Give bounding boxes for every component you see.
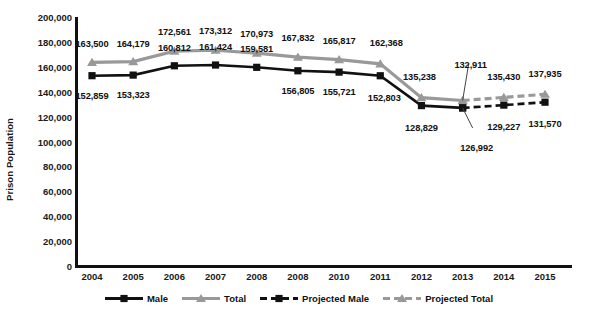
x-axis-tick-label: 2013 <box>440 271 486 282</box>
data-point-value-label: 155,721 <box>323 87 356 97</box>
x-axis-tick-label: 2004 <box>69 271 115 282</box>
legend-swatch-triangle-dashed-icon <box>382 292 422 305</box>
x-axis-tick-label: 2012 <box>398 271 444 282</box>
data-point-value-label: 132,911 <box>454 60 486 70</box>
data-point-marker <box>130 72 137 79</box>
data-point-value-label: 167,832 <box>281 33 314 43</box>
data-point-value-label: 135,238 <box>403 72 436 82</box>
data-point-value-label: 126,992 <box>460 143 493 153</box>
x-axis-tick-label: 2008 <box>234 271 280 282</box>
data-point-value-label: 129,227 <box>487 122 520 132</box>
data-point-marker <box>253 64 260 71</box>
data-point-marker <box>541 99 548 106</box>
x-axis-tick-label: 2007 <box>193 271 239 282</box>
data-point-value-label: 173,312 <box>199 26 232 36</box>
data-point-marker <box>500 102 507 109</box>
x-axis-tick-label: 2008 <box>275 271 321 282</box>
x-axis-tick-label: 2015 <box>522 271 568 282</box>
data-point-value-label: 137,935 <box>529 69 562 79</box>
data-point-value-label: 163,500 <box>76 39 109 49</box>
label-leader-line <box>463 108 473 128</box>
legend-item-total[interactable]: Total <box>181 292 246 305</box>
data-point-value-label: 131,570 <box>529 119 562 129</box>
x-axis-tick-labels: 2004200520062007200820082010201120122013… <box>0 271 597 287</box>
data-point-value-label: 165,817 <box>323 36 356 46</box>
data-point-value-label: 172,561 <box>158 27 191 37</box>
legend-label: Total <box>224 293 246 304</box>
data-point-value-label: 128,829 <box>405 123 438 133</box>
legend-item-projected-total[interactable]: Projected Total <box>382 292 493 305</box>
legend-swatch-square-solid-icon <box>104 292 144 305</box>
legend-swatch-triangle-solid-icon <box>181 292 221 305</box>
x-axis-tick-label: 2011 <box>357 271 403 282</box>
data-point-value-label: 160,812 <box>158 43 191 53</box>
data-point-marker <box>212 61 219 68</box>
legend-item-male[interactable]: Male <box>104 292 168 305</box>
data-point-marker <box>88 72 95 79</box>
data-point-value-label: 170,973 <box>240 29 273 39</box>
data-point-value-label: 164,179 <box>117 39 150 49</box>
chart-legend: MaleTotalProjected MaleProjected Total <box>0 289 597 307</box>
x-axis-tick-label: 2010 <box>316 271 362 282</box>
data-point-value-label: 159,581 <box>240 44 273 54</box>
legend-swatch-square-dashed-icon <box>259 292 299 305</box>
data-point-marker <box>418 102 425 109</box>
legend-label: Projected Total <box>425 293 493 304</box>
data-point-marker <box>377 72 384 79</box>
data-point-value-label: 153,323 <box>117 90 150 100</box>
legend-label: Projected Male <box>302 293 369 304</box>
legend-label: Male <box>147 293 168 304</box>
data-point-value-label: 161,424 <box>199 42 232 52</box>
data-point-marker <box>294 67 301 74</box>
data-point-value-label: 135,430 <box>487 72 520 82</box>
data-point-marker <box>171 62 178 69</box>
x-axis-tick-label: 2006 <box>151 271 197 282</box>
x-axis-tick-label: 2014 <box>481 271 527 282</box>
data-point-value-label: 152,803 <box>368 93 401 103</box>
prison-population-chart: Prison Population 020,00040,00060,00080,… <box>0 0 597 310</box>
legend-item-projected-male[interactable]: Projected Male <box>259 292 369 305</box>
data-point-marker <box>335 69 342 76</box>
data-point-value-label: 156,805 <box>281 86 314 96</box>
data-point-value-label: 152,859 <box>76 91 109 101</box>
x-axis-tick-label: 2005 <box>110 271 156 282</box>
data-point-value-label: 162,368 <box>370 38 403 48</box>
